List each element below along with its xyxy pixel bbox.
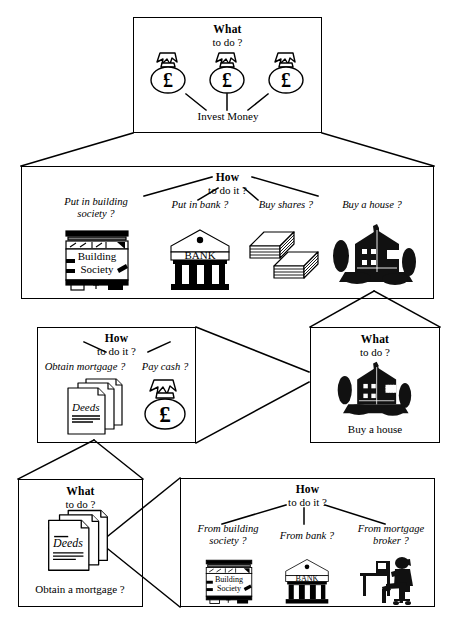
box-title: What bbox=[311, 333, 439, 346]
svg-text:Society: Society bbox=[81, 263, 114, 275]
option-label-from-mortgage-broker[interactable]: From mortgage broker ? bbox=[348, 523, 434, 548]
option-label-obtain-mortgage[interactable]: Obtain mortgage ? bbox=[39, 361, 131, 373]
box-title: How bbox=[22, 171, 433, 184]
box-title: How bbox=[181, 483, 434, 496]
callout-line bbox=[21, 133, 133, 166]
callout-line bbox=[94, 440, 143, 479]
option-label-from-bank[interactable]: From bank ? bbox=[272, 530, 342, 542]
svg-text:Society: Society bbox=[217, 584, 241, 593]
box-subtitle: to do ? bbox=[134, 36, 321, 49]
svg-text:BANK: BANK bbox=[184, 249, 215, 261]
option-label-pay-cash[interactable]: Pay cash ? bbox=[134, 361, 196, 373]
option-label-buy-shares[interactable]: Buy shares ? bbox=[240, 199, 332, 211]
callout-line bbox=[322, 133, 434, 166]
money-bag-icon: £ bbox=[146, 50, 190, 96]
house-icon bbox=[331, 222, 417, 292]
building-society-icon: Building Society bbox=[62, 228, 132, 292]
share-certificates-icon bbox=[248, 228, 322, 292]
svg-text:Building: Building bbox=[78, 250, 117, 262]
svg-text:£: £ bbox=[159, 402, 171, 427]
box-title: What bbox=[134, 23, 321, 36]
svg-text:BANK: BANK bbox=[296, 574, 319, 583]
bank-icon: BANK bbox=[167, 228, 233, 292]
money-bag-icon: £ bbox=[205, 50, 249, 96]
building-society-icon: Building Society bbox=[197, 558, 261, 605]
svg-text:£: £ bbox=[281, 69, 291, 91]
option-label-buy-a-house[interactable]: Buy a house ? bbox=[324, 199, 420, 211]
svg-text:Deeds: Deeds bbox=[71, 401, 100, 413]
money-bag-icon: £ bbox=[140, 377, 192, 433]
box-subtitle: to do ? bbox=[311, 346, 439, 359]
box-subtitle: to do it ? bbox=[38, 345, 195, 358]
house-icon bbox=[331, 360, 417, 422]
deeds-icon: Deeds bbox=[60, 377, 130, 439]
svg-text:£: £ bbox=[222, 69, 232, 91]
callout-line bbox=[196, 382, 309, 443]
box-subtitle: to do it ? bbox=[181, 496, 434, 509]
box-title: How bbox=[38, 332, 195, 345]
option-label-from-building-society[interactable]: From building society ? bbox=[184, 523, 272, 548]
svg-text:£: £ bbox=[163, 69, 173, 91]
callout-line bbox=[18, 440, 94, 479]
box-caption: Obtain a mortgage ? bbox=[20, 583, 140, 595]
mortgage-broker-icon bbox=[358, 556, 424, 606]
callout-line bbox=[196, 327, 309, 372]
bank-icon: BANK bbox=[280, 558, 334, 605]
svg-text:Building: Building bbox=[215, 575, 243, 584]
svg-text:Deeds: Deeds bbox=[52, 536, 83, 550]
option-label-put-in-building-society[interactable]: Put in building society ? bbox=[43, 196, 149, 221]
deeds-icon: Deeds bbox=[40, 508, 116, 576]
option-label-put-in-bank[interactable]: Put in bank ? bbox=[152, 199, 248, 211]
box-title: What bbox=[19, 485, 142, 498]
box-caption: Buy a house bbox=[315, 423, 435, 435]
money-bag-icon: £ bbox=[264, 50, 308, 96]
diagram-canvas: What to do ? £ £ bbox=[0, 0, 452, 639]
box-caption: Invest Money bbox=[163, 110, 293, 122]
